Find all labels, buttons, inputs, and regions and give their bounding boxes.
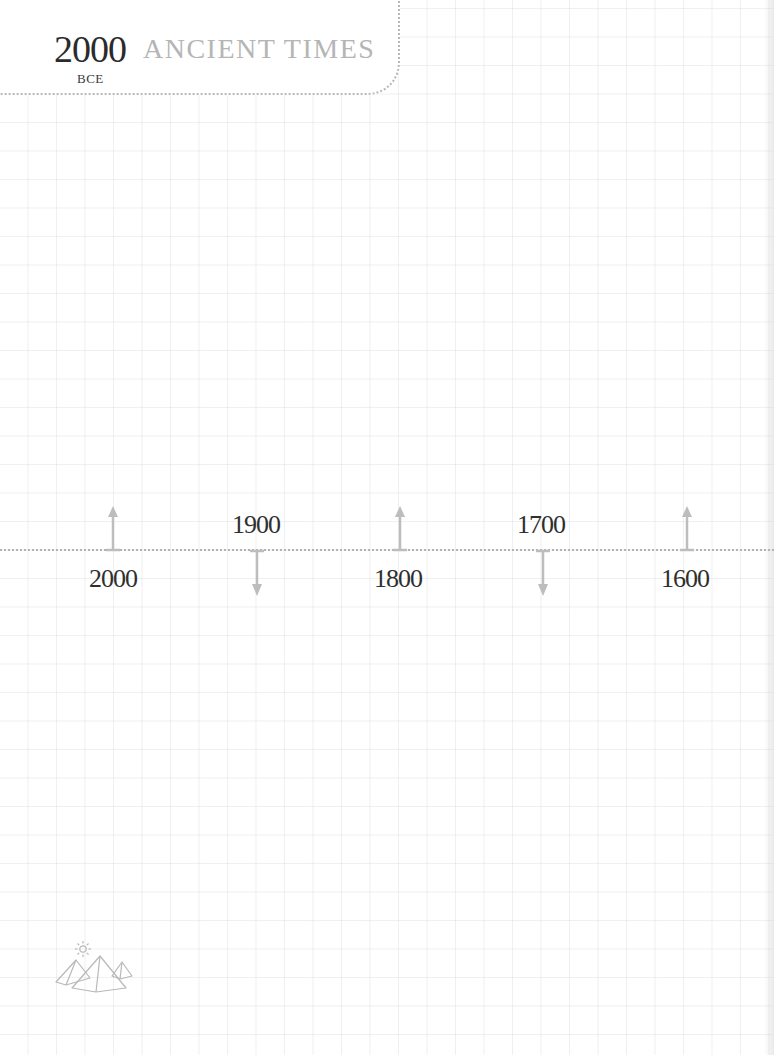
arrow-up-icon xyxy=(388,504,412,552)
header-era: BCE xyxy=(77,72,104,85)
timeline-marker-1800 xyxy=(388,504,412,552)
timeline-marker-2000 xyxy=(101,504,125,552)
timeline-label-1700: 1700 xyxy=(517,512,565,538)
header-year: 2000 xyxy=(54,30,126,68)
arrow-down-icon xyxy=(531,549,555,597)
timeline-marker-1600 xyxy=(675,504,699,552)
timeline-marker-1700 xyxy=(531,549,555,597)
timeline-label-1600: 1600 xyxy=(661,566,709,592)
timeline-label-1800: 1800 xyxy=(374,566,422,592)
arrow-down-icon xyxy=(245,549,269,597)
header-title: ANCIENT TIMES xyxy=(143,35,375,63)
timeline-label-2000: 2000 xyxy=(89,566,137,592)
timeline-label-1900: 1900 xyxy=(232,512,280,538)
page-edge-shadow xyxy=(764,0,774,1055)
arrow-up-icon xyxy=(101,504,125,552)
timeline-marker-1900 xyxy=(245,549,269,597)
arrow-up-icon xyxy=(675,504,699,552)
pyramids-with-sun-icon xyxy=(52,938,136,1000)
